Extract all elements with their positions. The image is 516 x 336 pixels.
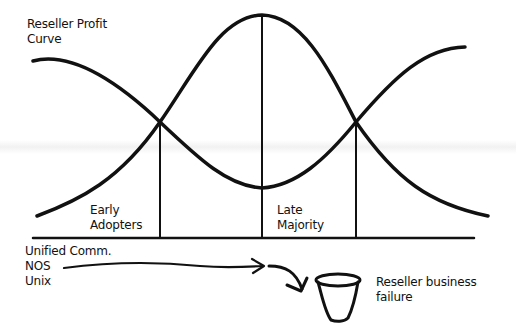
bucket-icon [316,274,360,321]
technology-unified-comm: Unified Comm. [25,244,111,259]
technology-list: Unified Comm. NOS Unix [25,244,111,289]
segment-label-early-adopters: Early Adopters [90,203,142,233]
diagram-title: Reseller Profit Curve [27,17,107,47]
arrow-curved [269,266,302,289]
technology-unix: Unix [25,274,111,289]
technology-nos: NOS [25,259,111,274]
outcome-label: Reseller business failure [376,275,477,305]
segment-label-late-majority: Late Majority [277,203,324,233]
reseller-profit-curve [33,47,465,188]
